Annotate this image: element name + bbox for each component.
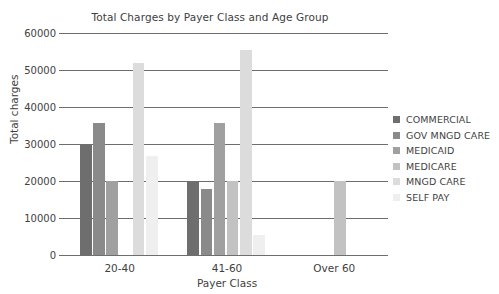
legend-item-label: MEDICAID <box>406 145 454 156</box>
bar-mngd-care-20-40[interactable] <box>133 63 145 255</box>
legend-item-commercial[interactable]: COMMERCIAL <box>393 112 490 128</box>
legend-item-label: COMMERCIAL <box>406 114 471 125</box>
y-tick-label-40000: 40000 <box>24 102 56 113</box>
x-tick-label-41-60: 41-60 <box>212 262 243 274</box>
legend-item-label: GOV MNGD CARE <box>406 130 490 141</box>
legend-swatch-icon <box>393 116 400 123</box>
legend-swatch-icon <box>393 147 400 154</box>
legend-swatch-icon <box>393 163 400 170</box>
y-tick-label-0: 0 <box>50 250 56 261</box>
bar-gov-mngd-care-20-40[interactable] <box>93 123 105 255</box>
y-tick-label-50000: 50000 <box>24 65 56 76</box>
bar-medicaid-41-60[interactable] <box>214 123 226 255</box>
bar-medicare-41-60[interactable] <box>227 181 239 255</box>
bar-commercial-41-60[interactable] <box>187 181 199 255</box>
legend-item-label: MEDICARE <box>406 161 457 172</box>
y-tick-10000 <box>59 218 66 219</box>
legend-item-gov-mngd-care[interactable]: GOV MNGD CARE <box>393 128 490 144</box>
legend-item-self-pay[interactable]: SELF PAY <box>393 190 490 206</box>
y-tick-label-60000: 60000 <box>24 28 56 39</box>
chart-title: Total Charges by Payer Class and Age Gro… <box>60 11 360 23</box>
y-axis-title: Total charges <box>8 75 20 144</box>
legend-swatch-icon <box>393 132 400 139</box>
y-tick-label-10000: 10000 <box>24 213 56 224</box>
x-tick-label-20-40: 20-40 <box>104 262 135 274</box>
y-tick-60000 <box>59 33 66 34</box>
legend-swatch-icon <box>393 194 400 201</box>
x-tick-label-over-60: Over 60 <box>313 262 355 274</box>
top-edge-artifact <box>0 0 499 3</box>
y-tick-30000 <box>59 144 66 145</box>
legend-swatch-icon <box>393 178 400 185</box>
y-tick-20000 <box>59 181 66 182</box>
legend: COMMERCIALGOV MNGD CAREMEDICAIDMEDICAREM… <box>393 112 490 205</box>
bar-group-41-60 <box>187 33 266 255</box>
bars-layer <box>66 33 388 255</box>
plot-area: 0100002000030000400005000060000 20-4041-… <box>66 33 388 255</box>
bar-medicaid-20-40[interactable] <box>106 181 118 255</box>
y-tick-40000 <box>59 107 66 108</box>
bar-gov-mngd-care-41-60[interactable] <box>201 189 213 255</box>
bar-commercial-20-40[interactable] <box>80 144 92 255</box>
legend-item-label: MNGD CARE <box>406 176 466 187</box>
bar-mngd-care-41-60[interactable] <box>240 50 252 255</box>
y-tick-0 <box>59 255 66 256</box>
bar-self-pay-20-40[interactable] <box>146 156 158 255</box>
y-tick-50000 <box>59 70 66 71</box>
legend-item-mngd-care[interactable]: MNGD CARE <box>393 174 490 190</box>
bar-group-20-40 <box>80 33 159 255</box>
bar-self-pay-41-60[interactable] <box>253 235 265 255</box>
bar-chart: Total Charges by Payer Class and Age Gro… <box>0 0 499 294</box>
y-tick-label-20000: 20000 <box>24 176 56 187</box>
legend-item-medicaid[interactable]: MEDICAID <box>393 143 490 159</box>
legend-item-medicare[interactable]: MEDICARE <box>393 159 490 175</box>
bar-medicare-over-60[interactable] <box>334 181 346 255</box>
x-axis-title: Payer Class <box>66 277 388 289</box>
legend-item-label: SELF PAY <box>406 192 449 203</box>
bar-group-over-60 <box>295 33 374 255</box>
y-tick-label-30000: 30000 <box>24 139 56 150</box>
